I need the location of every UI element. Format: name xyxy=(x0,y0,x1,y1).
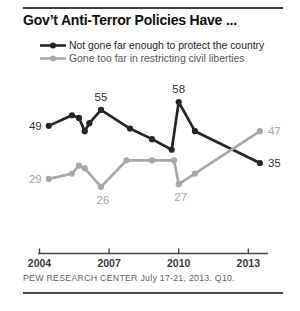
data-point xyxy=(257,160,263,166)
data-point xyxy=(82,128,88,134)
data-point xyxy=(82,165,88,171)
data-point xyxy=(149,136,155,142)
data-point xyxy=(98,107,104,113)
source-note: PEW RESEARCH CENTER July 17-21, 2013. Q1… xyxy=(23,273,293,283)
data-point xyxy=(149,157,155,163)
value-label: 29 xyxy=(29,173,42,185)
data-point xyxy=(76,163,82,169)
value-label: 47 xyxy=(268,125,281,137)
data-point xyxy=(127,125,133,131)
value-label: 55 xyxy=(95,91,108,103)
data-point xyxy=(76,115,82,121)
value-label: 35 xyxy=(268,157,281,169)
x-tick-label-2013: 2013 xyxy=(237,257,261,269)
data-point xyxy=(192,128,198,134)
series-line-0 xyxy=(49,102,260,163)
data-point xyxy=(169,147,175,153)
data-point xyxy=(192,171,198,177)
data-point xyxy=(123,157,129,163)
value-label: 58 xyxy=(172,83,185,95)
data-point xyxy=(171,157,177,163)
chart-card: Gov’t Anti-Terror Policies Have ... Not … xyxy=(0,0,300,311)
data-point xyxy=(69,171,75,177)
data-point xyxy=(46,176,52,182)
x-tick-label-2004: 2004 xyxy=(28,257,52,269)
data-point xyxy=(176,99,182,105)
value-label: 49 xyxy=(29,120,42,132)
value-label: 26 xyxy=(97,194,110,206)
data-point xyxy=(86,120,92,126)
data-point xyxy=(98,184,104,190)
x-tick-label-2007: 2007 xyxy=(97,257,121,269)
x-tick-label-2010: 2010 xyxy=(167,257,191,269)
data-point xyxy=(176,181,182,187)
value-label: 27 xyxy=(174,191,187,203)
data-point xyxy=(69,112,75,118)
data-point xyxy=(257,128,263,134)
data-point xyxy=(46,123,52,129)
line-chart-plot: 20042007201020134955583529262747 xyxy=(0,0,300,311)
bottom-rule xyxy=(23,292,283,294)
